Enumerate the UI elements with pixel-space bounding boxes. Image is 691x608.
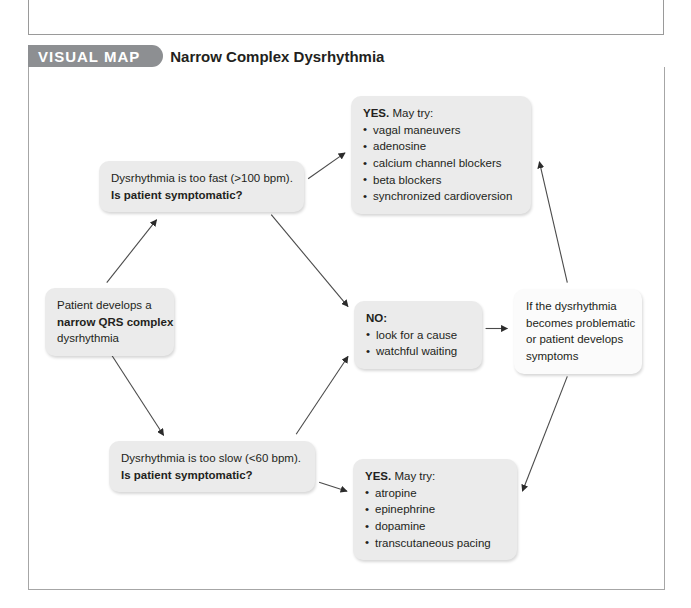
connector-recurrence-to-yes-fast bbox=[539, 162, 567, 283]
list-item: adenosine bbox=[363, 138, 519, 155]
connector-fast-to-yes bbox=[308, 153, 345, 179]
node-recurrence-line4: symptoms bbox=[526, 348, 630, 365]
node-yes-bradycardia-treatments: YES. May try: atropine epinephrine dopam… bbox=[353, 459, 517, 560]
list-item: synchronized cardioversion bbox=[363, 188, 519, 205]
connector-start-to-fast bbox=[107, 220, 157, 283]
node-recurrence-line1: If the dysrhythmia bbox=[526, 298, 630, 315]
list-item: calcium channel blockers bbox=[363, 155, 519, 172]
list-item: vagal maneuvers bbox=[363, 122, 519, 139]
list-item: beta blockers bbox=[363, 172, 519, 189]
list-item: dopamine bbox=[365, 518, 505, 535]
list-item: look for a cause bbox=[366, 327, 470, 344]
node-no-lead: NO: bbox=[366, 310, 470, 327]
list-item: transcutaneous pacing bbox=[365, 535, 505, 552]
connector-slow-to-yes-slow bbox=[319, 482, 347, 491]
node-too-fast-question: Dysrhythmia is too fast (>100 bpm). Is p… bbox=[99, 161, 304, 212]
list-item: epinephrine bbox=[365, 501, 505, 518]
connector-fast-to-no bbox=[271, 215, 348, 307]
node-no-list: look for a cause watchful waiting bbox=[366, 327, 470, 360]
visual-map-diagram: Patient develops a narrow QRS complex dy… bbox=[28, 67, 665, 590]
node-yes-slow-list: atropine epinephrine dopamine transcutan… bbox=[365, 485, 505, 552]
page-title: Narrow Complex Dysrhythmia bbox=[152, 45, 384, 67]
connector-slow-to-no bbox=[296, 356, 348, 434]
node-fast-line1: Dysrhythmia is too fast (>100 bpm). bbox=[111, 170, 292, 187]
visual-map-tab-label: VISUAL MAP bbox=[28, 45, 152, 67]
node-no-asymptomatic: NO: look for a cause watchful waiting bbox=[354, 301, 482, 369]
node-start-line2: narrow QRS complex bbox=[57, 316, 173, 328]
node-too-slow-question: Dysrhythmia is too slow (<60 bpm). Is pa… bbox=[109, 441, 315, 492]
node-recurrence-condition: If the dysrhythmia becomes problematic o… bbox=[514, 289, 642, 374]
node-yes-fast-lead: YES. May try: bbox=[363, 105, 519, 122]
node-fast-line2: Is patient symptomatic? bbox=[111, 189, 243, 201]
node-slow-line1: Dysrhythmia is too slow (<60 bpm). bbox=[121, 450, 303, 467]
node-patient-develops: Patient develops a narrow QRS complex dy… bbox=[45, 288, 174, 356]
node-start-line3: dysrhythmia bbox=[57, 330, 162, 347]
node-yes-slow-lead: YES. May try: bbox=[365, 468, 505, 485]
connector-recurrence-to-yes-slow bbox=[522, 376, 567, 491]
list-item: atropine bbox=[365, 485, 505, 502]
clipped-box-above bbox=[28, 0, 664, 35]
node-recurrence-line3: or patient develops bbox=[526, 331, 630, 348]
connector-start-to-slow bbox=[107, 347, 164, 435]
visual-map-header: VISUAL MAP Narrow Complex Dysrhythmia bbox=[28, 45, 384, 67]
node-start-line1: Patient develops a bbox=[57, 297, 162, 314]
node-slow-line2: Is patient symptomatic? bbox=[121, 469, 253, 481]
node-yes-tachycardia-treatments: YES. May try: vagal maneuvers adenosine … bbox=[351, 96, 531, 214]
list-item: watchful waiting bbox=[366, 343, 470, 360]
node-recurrence-line2: becomes problematic bbox=[526, 315, 630, 332]
node-yes-fast-list: vagal maneuvers adenosine calcium channe… bbox=[363, 122, 519, 205]
